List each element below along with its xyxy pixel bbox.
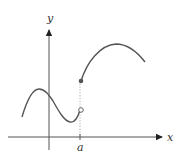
- left-curve: [22, 89, 80, 122]
- function-graph: y x a: [0, 0, 177, 163]
- right-curve: [81, 44, 145, 81]
- open-point: [79, 108, 84, 113]
- x-axis-label: x: [167, 131, 174, 144]
- filled-point: [79, 79, 84, 84]
- y-axis-label: y: [46, 12, 54, 25]
- tick-label-a: a: [77, 141, 84, 154]
